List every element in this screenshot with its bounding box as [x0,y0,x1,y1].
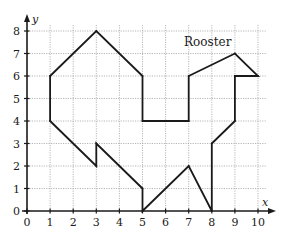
vertex-point [211,143,213,145]
vertex-point [142,75,144,77]
vertex-point [49,75,51,77]
x-tick-labels: 012345678910 [24,216,266,229]
vertex-point [234,120,236,122]
vertex-point [95,143,97,145]
vertex-point [142,188,144,190]
x-tick-label: 8 [208,216,215,229]
chart-title: Rooster [184,35,232,49]
x-axis-label: x [262,196,269,209]
x-tick-label: 2 [70,216,77,229]
vertex-point [234,53,236,55]
x-tick-label: 6 [162,216,169,229]
y-tick-label: 0 [13,205,20,218]
vertex-point [211,210,213,212]
vertex-point [234,75,236,77]
x-tick-label: 7 [185,216,192,229]
vertex-point [95,30,97,32]
vertex-point [188,75,190,77]
y-tick-label: 1 [13,183,20,196]
x-axis-arrow-icon [268,208,276,214]
y-tick-label: 6 [13,70,20,83]
vertex-point [142,120,144,122]
x-tick-label: 9 [231,216,238,229]
x-tick-label: 3 [93,216,100,229]
vertex-point [49,120,51,122]
vertex-point [188,165,190,167]
chart: 012345678910 012345678 Rooster x y [0,0,285,239]
vertex-point [142,210,144,212]
vertex-point [95,165,97,167]
x-tick-label: 1 [47,216,54,229]
y-tick-label: 3 [13,138,20,151]
x-tick-label: 0 [24,216,31,229]
grid [27,25,266,211]
x-tick-label: 4 [116,216,123,229]
vertex-point [257,75,259,77]
axes [22,14,276,214]
y-tick-labels: 012345678 [13,25,20,218]
x-tick-label: 10 [251,216,265,229]
x-tick-label: 5 [139,216,146,229]
y-tick-label: 8 [13,25,20,38]
y-tick-label: 5 [13,93,20,106]
y-tick-label: 7 [13,48,20,61]
y-tick-label: 4 [13,115,20,128]
y-axis-label: y [31,13,39,26]
vertex-point [188,120,190,122]
y-axis-arrow-icon [24,14,30,22]
y-tick-label: 2 [13,160,20,173]
